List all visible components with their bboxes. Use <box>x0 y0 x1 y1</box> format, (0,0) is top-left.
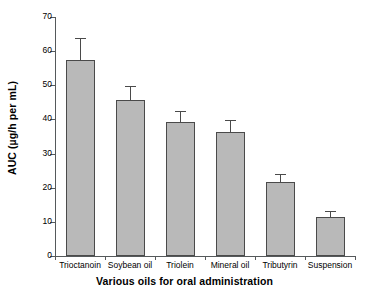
bar-chart-figure: AUC (µg/h per mL) 010203040506070 Trioct… <box>0 0 369 296</box>
error-bar-stem <box>180 112 181 123</box>
y-axis-tick-label: 10 <box>43 216 52 227</box>
y-axis-tick-label: 60 <box>43 45 52 56</box>
y-axis-tick-label: 70 <box>43 11 52 22</box>
x-axis-tick-label: Tributyrin <box>255 260 305 271</box>
x-axis-title: Various oils for oral administration <box>0 275 369 287</box>
x-axis-tick-label: Soybean oil <box>105 260 155 271</box>
y-axis-tick-label: 0 <box>47 250 52 261</box>
error-bar-cap <box>175 111 186 112</box>
error-bar <box>166 112 195 256</box>
error-bar <box>316 212 345 256</box>
y-axis-title: AUC (µg/h per mL) <box>0 0 24 256</box>
x-axis-tick-mark <box>355 256 356 260</box>
y-axis-line <box>55 17 56 256</box>
error-bar <box>116 87 145 256</box>
error-bar <box>216 121 245 256</box>
error-bar <box>266 175 295 256</box>
x-axis-tick-label: Triolein <box>155 260 205 271</box>
x-axis-tick-label: Mineral oil <box>205 260 255 271</box>
error-bar-cap <box>125 86 136 87</box>
error-bar-stem <box>330 212 331 217</box>
error-bar-cap <box>275 174 286 175</box>
x-axis-tick-label: Trioctanoin <box>55 260 105 271</box>
error-bar <box>66 39 95 256</box>
y-axis-tick-label: 50 <box>43 79 52 90</box>
y-axis-tick-label: 30 <box>43 148 52 159</box>
error-bar-stem <box>80 39 81 59</box>
error-bar-cap <box>75 38 86 39</box>
error-bar-stem <box>280 175 281 183</box>
y-axis-tick-label: 40 <box>43 113 52 124</box>
error-bar-cap <box>225 120 236 121</box>
y-axis-title-text: AUC (µg/h per mL) <box>6 81 18 175</box>
y-axis-tick-label: 20 <box>43 182 52 193</box>
error-bar-stem <box>130 87 131 100</box>
x-axis-tick-label: Suspension <box>305 260 355 271</box>
plot-area: 010203040506070 TrioctanoinSoybean oilTr… <box>55 17 355 256</box>
error-bar-stem <box>230 121 231 132</box>
error-bar-cap <box>325 211 336 212</box>
